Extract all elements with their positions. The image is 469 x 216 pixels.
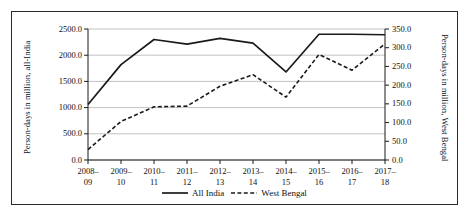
x-tick-year-start: 2008– bbox=[71, 166, 105, 177]
x-tick-year-start: 2009– bbox=[104, 166, 138, 177]
x-tick-year-start: 2015– bbox=[302, 166, 336, 177]
x-tick-year-start: 2010– bbox=[137, 166, 171, 177]
x-axis-tick-label: 2014–15 bbox=[269, 166, 303, 187]
y-axis-left-title: Person-days in million, all-India bbox=[22, 24, 32, 170]
series-line-all-india bbox=[88, 34, 385, 104]
x-axis-tick-label: 2017–18 bbox=[368, 166, 402, 187]
gridlines-group bbox=[88, 29, 385, 160]
x-tick-year-end: 14 bbox=[236, 177, 270, 188]
x-tick-year-start: 2013– bbox=[236, 166, 270, 177]
x-tick-year-end: 13 bbox=[203, 177, 237, 188]
chart-legend: All IndiaWest Bengal bbox=[0, 188, 469, 198]
y-axis-left-tick-label: 1000.0 bbox=[36, 102, 82, 112]
x-axis-tick-label: 2010–11 bbox=[137, 166, 171, 187]
x-tick-year-end: 09 bbox=[71, 177, 105, 188]
chart-figure: 0.0500.01000.01500.02000.02500.0 0.050.0… bbox=[0, 0, 469, 216]
legend-swatch-solid-line bbox=[162, 189, 188, 197]
x-tick-year-end: 17 bbox=[335, 177, 369, 188]
legend-entry-west-bengal: West Bengal bbox=[231, 188, 307, 198]
x-axis-tick-label: 2015–16 bbox=[302, 166, 336, 187]
x-tick-year-start: 2014– bbox=[269, 166, 303, 177]
x-axis-tick-label: 2008–09 bbox=[71, 166, 105, 187]
x-tick-year-start: 2017– bbox=[368, 166, 402, 177]
y-axis-right-tick-label: 300.0 bbox=[392, 42, 434, 52]
x-tick-year-end: 18 bbox=[368, 177, 402, 188]
y-axis-right-tick-label: 350.0 bbox=[392, 24, 434, 34]
x-tick-year-start: 2016– bbox=[335, 166, 369, 177]
y-axis-right-tick-label: 50.0 bbox=[392, 136, 434, 146]
x-axis-tick-label: 2011–12 bbox=[170, 166, 204, 187]
legend-entry-all-india: All India bbox=[162, 188, 224, 198]
x-tick-year-end: 11 bbox=[137, 177, 171, 188]
y-axis-right-tick-label: 150.0 bbox=[392, 98, 434, 108]
series-lines-group bbox=[88, 34, 385, 149]
legend-label: West Bengal bbox=[261, 188, 307, 198]
y-axis-right-tick-label: 250.0 bbox=[392, 61, 434, 71]
y-axis-left-tick-label: 0.0 bbox=[36, 155, 82, 165]
y-axis-left-tick-label: 2500.0 bbox=[36, 24, 82, 34]
x-axis-tick-label: 2012–13 bbox=[203, 166, 237, 187]
y-axis-left-tick-label: 500.0 bbox=[36, 128, 82, 138]
x-axis-tick-label: 2013–14 bbox=[236, 166, 270, 187]
y-axis-right-title: Person-days in million, West Bengal bbox=[440, 18, 450, 178]
y-axis-left-tick-label: 1500.0 bbox=[36, 76, 82, 86]
x-tick-year-start: 2011– bbox=[170, 166, 204, 177]
x-axis-tick-label: 2016–17 bbox=[335, 166, 369, 187]
axes-group bbox=[88, 29, 385, 160]
y-axis-right-tick-label: 100.0 bbox=[392, 117, 434, 127]
y-axis-right-tick-label: 0.0 bbox=[392, 155, 434, 165]
tick-marks-group bbox=[84, 29, 389, 164]
x-tick-year-end: 16 bbox=[302, 177, 336, 188]
x-axis-tick-label: 2009–10 bbox=[104, 166, 138, 187]
legend-swatch-dashed-line bbox=[231, 189, 257, 197]
y-axis-right-tick-label: 200.0 bbox=[392, 80, 434, 90]
y-axis-left-tick-label: 2000.0 bbox=[36, 50, 82, 60]
x-tick-year-end: 15 bbox=[269, 177, 303, 188]
x-tick-year-start: 2012– bbox=[203, 166, 237, 177]
legend-label: All India bbox=[192, 188, 224, 198]
x-tick-year-end: 10 bbox=[104, 177, 138, 188]
x-tick-year-end: 12 bbox=[170, 177, 204, 188]
